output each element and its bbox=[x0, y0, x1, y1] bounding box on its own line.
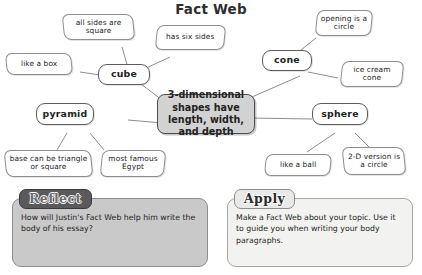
fact-node-cube-has-six-sides[interactable]: has six sides bbox=[155, 25, 227, 50]
apply-panel: Apply Make a Fact Web about your topic. … bbox=[227, 189, 413, 267]
shape-node-sphere[interactable]: sphere bbox=[312, 103, 368, 125]
fact-text: opening is a circle bbox=[320, 15, 368, 32]
shape-label: cube bbox=[111, 69, 137, 80]
link-center-sphere bbox=[249, 118, 312, 119]
shape-node-pyramid[interactable]: pyramid bbox=[36, 103, 94, 125]
link-pyramid-fact2 bbox=[90, 133, 104, 150]
fact-text: base can be triangle or square bbox=[9, 155, 88, 172]
shape-label: sphere bbox=[321, 109, 359, 120]
fact-text: most famous Egypt bbox=[105, 155, 161, 172]
shape-label: cone bbox=[274, 55, 300, 66]
link-cone-fact2 bbox=[308, 72, 338, 78]
fact-node-pyramid-most-famous-egypt[interactable]: most famous Egypt bbox=[100, 150, 167, 177]
fact-node-cube-like-a-box[interactable]: like a box bbox=[5, 53, 73, 75]
fact-node-cube-all-sides-are-square[interactable]: all sides are square bbox=[62, 14, 136, 40]
link-sphere-fact2 bbox=[355, 133, 370, 148]
fact-text: all sides are square bbox=[67, 19, 130, 36]
link-pyramid-fact1 bbox=[57, 133, 67, 150]
fact-node-pyramid-base-can-be-triangle-or-square[interactable]: base can be triangle or square bbox=[4, 150, 94, 177]
shape-node-cube[interactable]: cube bbox=[98, 64, 150, 85]
fact-text: 2-D version is a circle bbox=[347, 153, 401, 170]
fact-text: ice cream cone bbox=[345, 66, 399, 83]
link-cube-fact3 bbox=[80, 72, 100, 75]
shape-node-cone[interactable]: cone bbox=[262, 50, 312, 71]
fact-node-sphere-like-a-ball[interactable]: like a ball bbox=[264, 154, 332, 176]
center-node-main-idea[interactable]: 3-dimensional shapes have length, width,… bbox=[157, 94, 255, 134]
link-sphere-fact1 bbox=[307, 133, 335, 152]
fact-node-cone-opening-is-a-circle[interactable]: opening is a circle bbox=[315, 10, 374, 36]
fact-text: like a ball bbox=[280, 161, 316, 169]
fact-web-worksheet: Fact Web all sides are square ha bbox=[0, 0, 422, 275]
reflect-tab-label: Reflect bbox=[19, 189, 92, 209]
fact-text: like a box bbox=[21, 60, 57, 68]
fact-node-cone-ice-cream-cone[interactable]: ice cream cone bbox=[340, 61, 405, 87]
fact-text: has six sides bbox=[166, 33, 214, 41]
apply-tab-label: Apply bbox=[234, 189, 295, 209]
shape-label: pyramid bbox=[43, 109, 88, 120]
reflect-panel: Reflect How will Justin's Fact Web help … bbox=[12, 189, 208, 267]
center-node-text: 3-dimensional shapes have length, width,… bbox=[158, 89, 254, 138]
fact-node-sphere-2d-version-is-a-circle[interactable]: 2-D version is a circle bbox=[342, 147, 407, 175]
